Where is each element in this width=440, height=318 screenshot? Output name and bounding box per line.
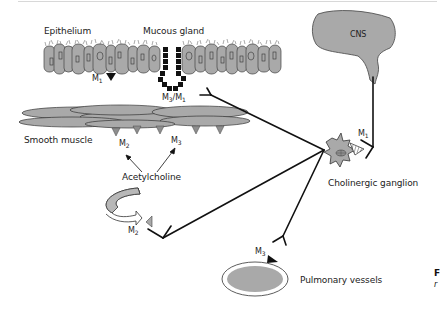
receptor-label-epithelium: M1 — [92, 74, 103, 84]
label-acetylcholine: Acetylcholine — [122, 172, 181, 182]
label-epithelium: Epithelium — [44, 26, 91, 36]
cutoff-caption-bold: F — [434, 268, 440, 278]
cns-shape — [312, 11, 395, 84]
label-smooth-muscle: Smooth muscle — [24, 135, 92, 145]
feedback-arrow — [106, 188, 142, 225]
label-pulmonary-vessels: Pulmonary vessels — [300, 275, 382, 285]
pulmonary-vessel-lumen — [227, 266, 283, 292]
receptor-label-nerve-terminal: M2 — [128, 226, 139, 236]
receptor-label-muscle-m2: M2 — [119, 139, 130, 149]
acetylcholine-arrows — [126, 148, 175, 172]
receptor-label-muscle-m3: M3 — [171, 136, 182, 146]
smooth-muscle — [19, 105, 250, 128]
m3-receptor-vessel — [267, 255, 278, 263]
m1-receptor-epithelium — [106, 73, 116, 81]
receptor-label-vessel: M3 — [255, 247, 266, 257]
receptor-label-ganglion: M1 — [358, 129, 369, 139]
label-cns: CNS — [350, 30, 366, 39]
m2-autoreceptor — [146, 216, 152, 227]
receptor-label-gland: M3/M1 — [162, 93, 186, 103]
cutoff-caption-italic: r — [434, 280, 437, 289]
label-mucous-gland: Mucous gland — [143, 26, 204, 36]
label-cholinergic-ganglion: Cholinergic ganglion — [328, 178, 418, 188]
